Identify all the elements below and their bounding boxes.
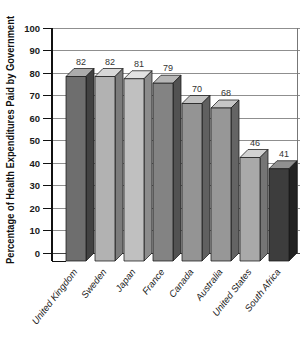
bar-value-label: 46: [250, 138, 260, 148]
bar-value-label: 70: [192, 84, 202, 94]
bar-front-face: [153, 83, 173, 261]
bar-front-face: [95, 77, 115, 262]
bar-front-face: [269, 169, 289, 261]
bar-front-face: [182, 104, 202, 262]
y-tick-label: 40: [29, 158, 40, 169]
y-tick-label: 90: [29, 45, 40, 56]
bar-front-face: [240, 158, 260, 262]
bar-side-face: [86, 69, 94, 262]
bar-front-face: [124, 79, 144, 261]
bar-side-face: [115, 69, 123, 262]
category-label: Sweden: [79, 266, 109, 300]
y-tick-label: 50: [29, 135, 40, 146]
y-tick-label: 0: [35, 248, 40, 259]
category-label: France: [140, 266, 167, 296]
bar-front-face: [66, 77, 86, 262]
bar-side-face: [231, 100, 239, 261]
bar-chart-canvas: 010203040506070809010082United Kingdom82…: [0, 0, 308, 353]
category-label: United Kingdom: [29, 266, 79, 326]
category-label: Canada: [166, 266, 195, 299]
bar-value-label: 68: [221, 88, 231, 98]
bar-value-label: 82: [76, 57, 86, 67]
health-expenditure-bar-chart: 010203040506070809010082United Kingdom82…: [0, 0, 308, 353]
bar-value-label: 82: [105, 57, 115, 67]
bar-side-face: [173, 75, 181, 261]
y-tick-label: 80: [29, 68, 40, 79]
bar-side-face: [144, 71, 152, 261]
bar-value-label: 81: [134, 59, 144, 69]
y-axis-title: Percentage of Health Expenditures Paid b…: [5, 15, 16, 264]
bar-side-face: [202, 96, 210, 262]
bar-value-label: 79: [163, 63, 173, 73]
bar-side-face: [289, 161, 297, 261]
bar-front-face: [211, 108, 231, 261]
y-tick-label: 70: [29, 90, 40, 101]
bar-value-label: 41: [279, 149, 289, 159]
category-label: Japan: [112, 266, 137, 294]
y-tick-label: 100: [24, 23, 40, 34]
y-tick-label: 30: [29, 180, 40, 191]
bar-side-face: [260, 150, 268, 262]
y-tick-label: 10: [29, 225, 40, 236]
y-tick-label: 60: [29, 113, 40, 124]
y-tick-label: 20: [29, 203, 40, 214]
